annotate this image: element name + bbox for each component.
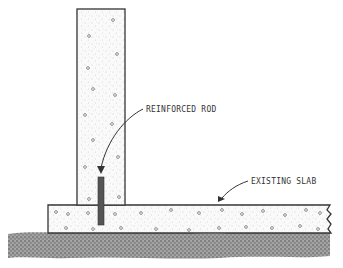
existing-slab — [48, 205, 331, 233]
diagram-canvas: REINFORCED ROD EXISTING SLAB — [0, 0, 343, 268]
reinforced-rod-label: REINFORCED ROD — [146, 104, 216, 114]
reinforced-rod — [98, 177, 104, 225]
concrete-wall — [77, 9, 125, 205]
slab-arrowhead — [218, 196, 225, 202]
ground-earth — [8, 231, 330, 259]
slab-leader-line — [222, 181, 248, 198]
existing-slab-label: EXISTING SLAB — [251, 176, 316, 186]
wall-slab-detail — [0, 0, 343, 268]
